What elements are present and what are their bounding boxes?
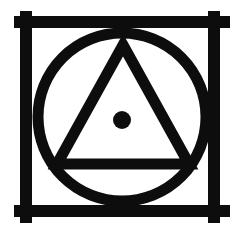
center-dot [113,111,131,129]
symbol-canvas: Esoteric Symbol: Triangle and Dot in Cir… [0,0,245,240]
